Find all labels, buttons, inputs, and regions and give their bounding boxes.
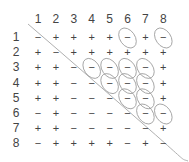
minus-sign: − xyxy=(138,108,152,119)
minus-sign: − xyxy=(121,62,135,73)
minus-sign: − xyxy=(138,123,152,134)
plus-sign: + xyxy=(103,47,117,58)
minus-sign: − xyxy=(31,138,45,149)
minus-sign: − xyxy=(85,77,99,88)
minus-sign: − xyxy=(103,62,117,73)
row-label: 6 xyxy=(9,107,23,119)
plus-sign: + xyxy=(67,138,81,149)
row-label: 2 xyxy=(9,46,23,58)
plus-sign: + xyxy=(31,77,45,88)
column-label: 5 xyxy=(103,13,117,25)
column-label: 4 xyxy=(85,13,99,25)
plus-sign: + xyxy=(49,62,63,73)
minus-sign: − xyxy=(103,77,117,88)
plus-sign: + xyxy=(49,92,63,103)
plus-sign: + xyxy=(49,77,63,88)
minus-sign: − xyxy=(31,108,45,119)
minus-sign: − xyxy=(67,123,81,134)
plus-sign: + xyxy=(156,62,170,73)
minus-sign: − xyxy=(121,108,135,119)
row-label: 8 xyxy=(9,137,23,149)
minus-sign: − xyxy=(67,108,81,119)
minus-sign: − xyxy=(156,108,170,119)
plus-sign: + xyxy=(67,32,81,43)
minus-sign: − xyxy=(138,92,152,103)
plus-sign: + xyxy=(156,123,170,134)
row-label: 3 xyxy=(9,61,23,73)
sign-matrix: 123456781−++++−+−2+−++++++3++−−−−−+4++−−… xyxy=(0,0,189,162)
minus-sign: − xyxy=(121,92,135,103)
plus-sign: + xyxy=(156,47,170,58)
minus-sign: − xyxy=(85,62,99,73)
row-label: 4 xyxy=(9,77,23,89)
minus-sign: − xyxy=(121,123,135,134)
minus-sign: − xyxy=(156,32,170,43)
minus-sign: − xyxy=(156,138,170,149)
column-label: 6 xyxy=(121,13,135,25)
plus-sign: + xyxy=(31,47,45,58)
plus-sign: + xyxy=(31,123,45,134)
minus-sign: − xyxy=(121,138,135,149)
column-label: 3 xyxy=(67,13,81,25)
minus-sign: − xyxy=(121,77,135,88)
row-label: 1 xyxy=(9,31,23,43)
plus-sign: + xyxy=(85,138,99,149)
plus-sign: + xyxy=(138,47,152,58)
minus-sign: − xyxy=(67,77,81,88)
minus-sign: − xyxy=(121,32,135,43)
column-label: 8 xyxy=(156,13,170,25)
minus-sign: − xyxy=(31,32,45,43)
minus-sign: − xyxy=(103,92,117,103)
plus-sign: + xyxy=(31,62,45,73)
plus-sign: + xyxy=(156,77,170,88)
plus-sign: + xyxy=(138,32,152,43)
minus-sign: − xyxy=(103,108,117,119)
plus-sign: + xyxy=(103,138,117,149)
plus-sign: + xyxy=(85,32,99,43)
plus-sign: + xyxy=(67,47,81,58)
column-label: 7 xyxy=(138,13,152,25)
plus-sign: + xyxy=(121,47,135,58)
plus-sign: + xyxy=(156,92,170,103)
minus-sign: − xyxy=(85,108,99,119)
minus-sign: − xyxy=(85,92,99,103)
minus-sign: − xyxy=(103,123,117,134)
minus-sign: − xyxy=(67,62,81,73)
plus-sign: + xyxy=(103,32,117,43)
plus-sign: + xyxy=(31,92,45,103)
plus-sign: + xyxy=(49,108,63,119)
plus-sign: + xyxy=(85,47,99,58)
column-label: 2 xyxy=(49,13,63,25)
plus-sign: + xyxy=(138,138,152,149)
minus-sign: − xyxy=(138,77,152,88)
row-label: 7 xyxy=(9,122,23,134)
minus-sign: − xyxy=(49,47,63,58)
plus-sign: + xyxy=(49,123,63,134)
column-label: 1 xyxy=(31,13,45,25)
plus-sign: + xyxy=(49,32,63,43)
row-label: 5 xyxy=(9,92,23,104)
minus-sign: − xyxy=(67,92,81,103)
plus-sign: + xyxy=(49,138,63,149)
minus-sign: − xyxy=(85,123,99,134)
minus-sign: − xyxy=(138,62,152,73)
